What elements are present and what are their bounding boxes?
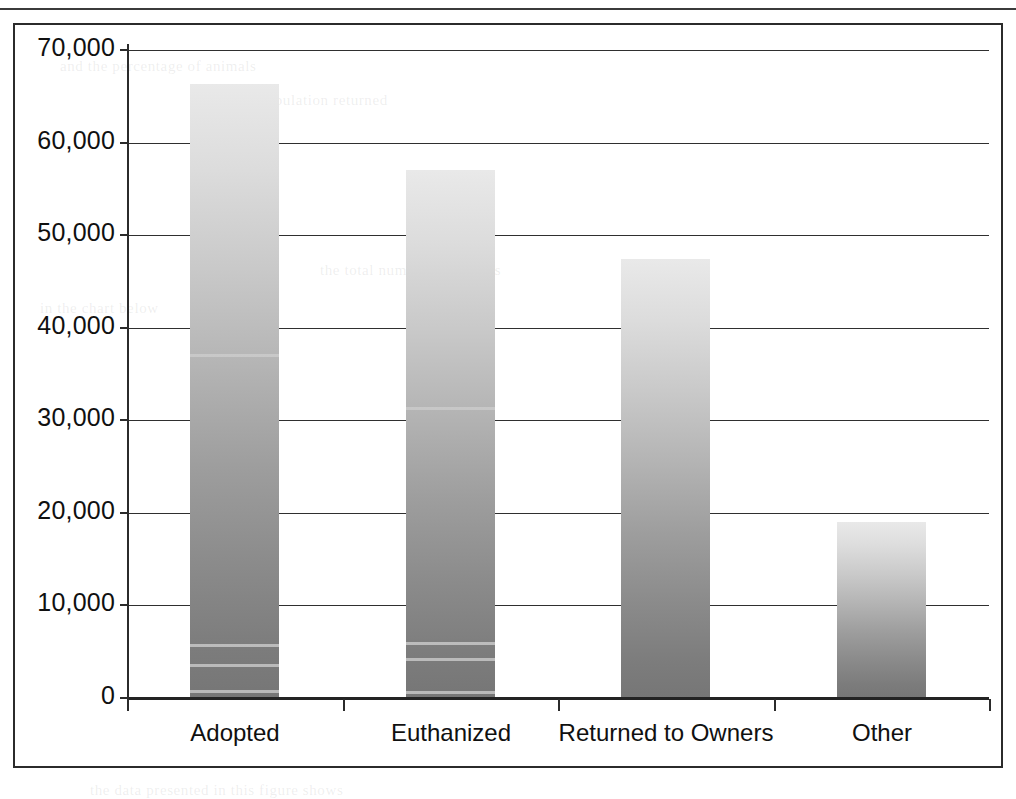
y-axis-tick-label: 70,000 [37,33,115,62]
y-axis-tick-label: 60,000 [37,126,115,155]
x-tick [343,699,345,711]
bar-scan-streak [190,690,279,693]
plot-area [127,50,989,698]
y-tick-40000 [120,327,129,329]
page-rule-top [0,8,1016,10]
bar-scan-streak [406,407,495,410]
gridline-70000 [127,50,989,51]
y-tick-50000 [120,234,129,236]
bar-scan-streak [406,691,495,694]
x-tick [127,699,129,711]
x-axis-label-adopted: Adopted [127,719,343,747]
x-axis-label-other: Other [774,719,990,747]
y-axis-tick-label: 0 [101,681,115,710]
x-tick [558,699,560,711]
y-tick-30000 [120,419,129,421]
y-tick-70000 [120,49,129,51]
bar-scan-streak [190,664,279,667]
bar-scan-streak [190,644,279,647]
y-axis-tick-label: 10,000 [37,588,115,617]
bar-scan-streak [406,658,495,661]
y-axis-tick-label: 50,000 [37,218,115,247]
bar-other [837,522,926,698]
y-axis-labels: 010,00020,00030,00040,00050,00060,00070,… [0,0,115,791]
y-tick-10000 [120,604,129,606]
x-axis-label-euthanized: Euthanized [343,719,559,747]
y-axis-tick-label: 20,000 [37,496,115,525]
y-axis-tick-label: 30,000 [37,403,115,432]
y-axis-tick-label: 40,000 [37,311,115,340]
x-tick [989,699,991,711]
y-tick-20000 [120,512,129,514]
x-axis-label-returned-to-owners: Returned to Owners [558,719,774,747]
ghost-text-line-5: the data presented in this figure shows [90,782,343,799]
x-tick [774,699,776,711]
bar-scan-streak [190,354,279,357]
bar-returned-to-owners [621,259,710,698]
y-tick-60000 [120,142,129,144]
bar-adopted [190,84,279,698]
y-tick-0 [120,697,129,699]
bar-euthanized [406,170,495,698]
bar-scan-streak [406,642,495,645]
